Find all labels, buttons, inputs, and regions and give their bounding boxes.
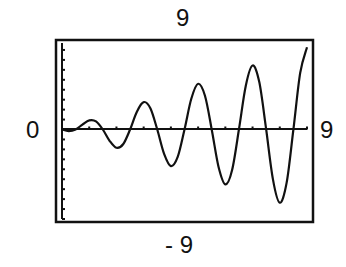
plotted-curve: [62, 47, 307, 203]
graph-screen: [0, 0, 346, 267]
